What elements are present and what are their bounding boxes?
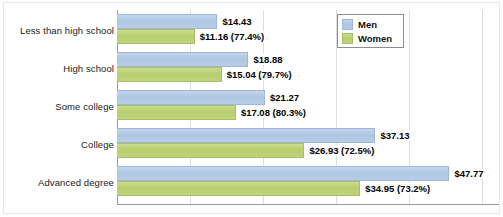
bar-women <box>117 143 304 158</box>
bar-men <box>117 128 375 143</box>
bar-value-label-men: $21.27 <box>269 92 300 103</box>
legend-swatch-men-icon <box>342 19 353 30</box>
bar-men <box>117 14 217 29</box>
category-label: Less than high school <box>0 25 114 36</box>
category-label: Advanced degree <box>0 177 114 188</box>
bar-women <box>117 29 195 44</box>
x-axis-line <box>117 204 499 205</box>
category-label: High school <box>0 63 114 74</box>
bar-men <box>117 52 248 67</box>
legend-item-women[interactable]: Women <box>342 32 399 45</box>
bar-value-label-women: $26.93 (72.5%) <box>308 145 375 156</box>
bar-value-label-women: $17.08 (80.3%) <box>240 107 307 118</box>
bar-value-label-women: $15.04 (79.7%) <box>226 69 293 80</box>
bar-value-label-women: $34.95 (73.2%) <box>364 183 431 194</box>
category-label: Some college <box>0 101 114 112</box>
legend-label-men: Men <box>358 19 377 30</box>
legend-label-women: Women <box>358 33 392 44</box>
bar-women <box>117 105 236 120</box>
bar-value-label-men: $14.43 <box>221 16 252 27</box>
legend-swatch-women-icon <box>342 33 353 44</box>
bar-value-label-men: $18.88 <box>252 54 283 65</box>
legend-item-men[interactable]: Men <box>342 18 399 31</box>
bar-chart: Less than high school$14.43$11.16 (77.4%… <box>0 0 503 217</box>
bar-men <box>117 90 265 105</box>
chart-legend: Men Women <box>337 14 404 48</box>
bar-women <box>117 67 222 82</box>
bar-value-label-men: $47.77 <box>453 168 484 179</box>
bar-men <box>117 166 449 181</box>
bar-women <box>117 181 360 196</box>
bar-value-label-women: $11.16 (77.4%) <box>199 31 265 42</box>
bar-value-label-men: $37.13 <box>379 130 410 141</box>
category-label: College <box>0 139 114 150</box>
